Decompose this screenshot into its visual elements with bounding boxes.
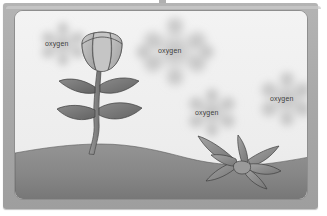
frame-highlight xyxy=(6,6,321,9)
grass-base-clump xyxy=(233,161,250,174)
oxygen-label-top-left: oxygen xyxy=(45,40,68,47)
diagram-scene-panel: oxygen oxygen oxygen oxygen xyxy=(14,10,308,200)
oxygen-label-top-center: oxygen xyxy=(158,47,181,54)
oxygen-label-mid-right: oxygen xyxy=(270,95,293,102)
screenshot-root: oxygen oxygen oxygen oxygen xyxy=(0,0,327,216)
flower-petal-center xyxy=(93,32,112,71)
oxygen-label-mid-center: oxygen xyxy=(195,109,218,116)
